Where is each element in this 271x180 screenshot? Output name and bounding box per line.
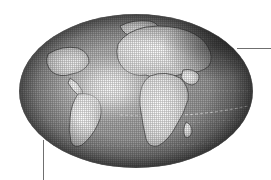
globe-illustration	[0, 0, 271, 180]
globe-disc	[19, 12, 266, 168]
leader-line-bottom	[43, 140, 44, 180]
leader-line-right	[237, 48, 271, 49]
rim-vignette	[19, 14, 253, 168]
figure-root	[0, 0, 271, 180]
